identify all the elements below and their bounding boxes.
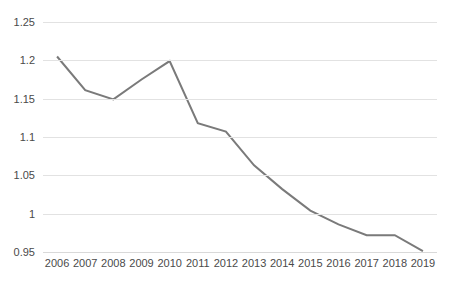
series-path-0 [57,57,423,252]
gridline [43,214,437,215]
y-tick-label: 0.95 [14,247,35,258]
gridline [43,60,437,61]
y-tick-label: 1 [29,208,35,219]
y-tick-label: 1.1 [20,132,35,143]
x-tick-label: 2019 [411,257,435,270]
x-tick-label: 2011 [186,257,210,270]
x-tick-label: 2018 [383,257,407,270]
gridline [43,175,437,176]
x-axis: 2006200720082009201020112012201320142015… [43,257,437,277]
x-tick-label: 2010 [157,257,181,270]
x-tick-label: 2009 [129,257,153,270]
y-tick-label: 1.25 [14,17,35,28]
x-tick-label: 2015 [298,257,322,270]
y-tick-label: 1.05 [14,170,35,181]
y-tick-label: 1.2 [20,55,35,66]
x-tick-label: 2008 [101,257,125,270]
gridline [43,252,437,253]
x-tick-label: 2012 [214,257,238,270]
x-tick-label: 2016 [326,257,350,270]
plot-area [43,22,437,252]
line-chart: 1.251.21.151.11.0510.95 2006200720082009… [0,0,451,286]
x-tick-label: 2013 [242,257,266,270]
y-axis: 1.251.21.151.11.0510.95 [0,0,43,286]
gridline [43,99,437,100]
x-tick-label: 2014 [270,257,294,270]
y-tick-label: 1.15 [14,93,35,104]
x-tick-label: 2007 [73,257,97,270]
x-tick-label: 2017 [354,257,378,270]
gridline [43,137,437,138]
gridline [43,22,437,23]
x-tick-label: 2006 [45,257,69,270]
